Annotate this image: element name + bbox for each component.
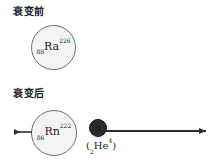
parent-atomic-number: 88 [36, 48, 44, 55]
daughter-mass-number: 222 [60, 122, 71, 129]
alpha-particle-caption: (2He4) [86, 140, 116, 153]
daughter-atomic-number: 86 [37, 134, 45, 141]
alpha-glyph: α [95, 124, 101, 133]
decay-diagram: 衰变前 88Ra226 衰变后 86Rn222 α (2He4) [0, 0, 223, 162]
alpha-caption-close: ) [112, 140, 116, 151]
alpha-mass-number: 4 [108, 137, 112, 144]
daughter-nucleus-radon: 86Rn222 [31, 110, 77, 156]
caption-before-decay: 衰变前 [13, 7, 45, 17]
daughter-nuclide-label: 86Rn222 [37, 125, 71, 139]
parent-nucleus-radium: 88Ra226 [31, 25, 76, 70]
alpha-particle: α [89, 119, 107, 137]
daughter-symbol: Rn [44, 125, 59, 138]
alpha-symbol: He [94, 140, 109, 151]
caption-after-decay: 衰变后 [13, 89, 45, 99]
parent-nuclide-label: 88Ra226 [36, 40, 70, 54]
alpha-atomic-number: 2 [90, 148, 94, 155]
parent-mass-number: 226 [59, 37, 70, 44]
parent-symbol: Ra [44, 39, 59, 52]
